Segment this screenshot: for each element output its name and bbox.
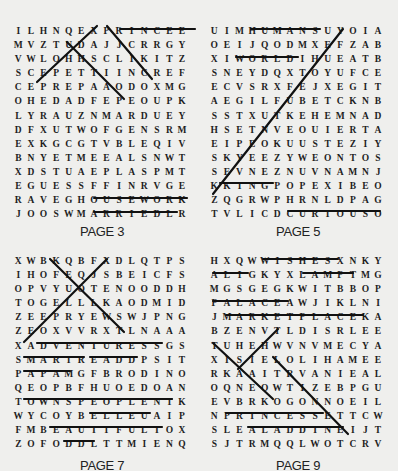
grid-letter: D (50, 94, 63, 108)
grid-letter: T (347, 151, 360, 165)
grid-letter: K (221, 151, 234, 165)
grid-letter: E (25, 80, 38, 94)
grid-letter: C (284, 207, 297, 221)
grid-letter: W (233, 52, 246, 66)
grid-letter: A (221, 296, 234, 310)
grid-letter: N (113, 282, 126, 296)
grid-letter: A (246, 367, 259, 381)
grid-letter: D (151, 282, 164, 296)
grid-letter: R (138, 179, 151, 193)
grid-letter: B (208, 324, 221, 338)
grid-letter: J (113, 38, 126, 52)
grid-letter: O (88, 123, 101, 137)
grid-letter: E (37, 310, 50, 324)
grid-letter: P (296, 179, 309, 193)
grid-letter: J (372, 165, 385, 179)
grid-letter: W (25, 254, 38, 268)
grid-letter: F (176, 66, 189, 80)
grid-letter: H (25, 94, 38, 108)
grid-letter: W (75, 123, 88, 137)
grid-letter: E (221, 94, 234, 108)
grid-letter: L (88, 437, 101, 451)
grid-letter: E (334, 80, 347, 94)
grid-letter: E (208, 395, 221, 409)
grid-letter: H (321, 353, 334, 367)
grid-letter: C (258, 207, 271, 221)
grid-letter: X (284, 268, 297, 282)
grid-letter: E (233, 123, 246, 137)
grid-letter: G (75, 367, 88, 381)
grid-letter: Q (221, 381, 234, 395)
grid-letter: V (284, 339, 297, 353)
grid-letter: P (151, 165, 164, 179)
grid-letter: B (347, 179, 360, 193)
grid-letter: S (176, 268, 189, 282)
grid-letter: M (25, 423, 38, 437)
grid-letter: T (163, 395, 176, 409)
grid-letter: I (233, 38, 246, 52)
grid-letter: F (271, 94, 284, 108)
grid-letter: A (208, 268, 221, 282)
grid-letter: V (100, 137, 113, 151)
grid-letter: N (347, 254, 360, 268)
grid-letter: S (151, 123, 164, 137)
grid-letter: A (37, 353, 50, 367)
grid-letter: T (88, 423, 101, 437)
grid-letter: N (258, 409, 271, 423)
grid-letter: E (88, 310, 101, 324)
grid-letter: H (75, 193, 88, 207)
grid-letter: W (296, 296, 309, 310)
grid-letter: T (208, 207, 221, 221)
grid-letter: X (246, 109, 259, 123)
grid-letter: M (208, 282, 221, 296)
grid-letter: K (176, 193, 189, 207)
grid-letter: S (138, 339, 151, 353)
grid-letter: J (12, 207, 25, 221)
grid-letter: E (284, 409, 297, 423)
grid-letter: R (37, 109, 50, 123)
grid-letter: A (88, 80, 101, 94)
page-label: PAGE 7 (80, 458, 124, 471)
grid-letter: R (12, 193, 25, 207)
grid-letter: H (246, 24, 259, 38)
grid-letter: Q (62, 254, 75, 268)
grid-letter: T (12, 395, 25, 409)
grid-letter: E (208, 80, 221, 94)
grid-letter: K (347, 94, 360, 108)
grid-letter: M (258, 437, 271, 451)
grid-letter: H (88, 381, 101, 395)
grid-letter: N (258, 123, 271, 137)
grid-letter: E (233, 324, 246, 338)
grid-letter: E (284, 123, 297, 137)
grid-letter: Y (359, 339, 372, 353)
grid-letter: P (296, 310, 309, 324)
grid-letter: A (88, 207, 101, 221)
grid-letter: W (296, 282, 309, 296)
grid-row: SSTXUTKEHEMNAD (208, 109, 384, 123)
grid-letter: X (271, 80, 284, 94)
grid-letter: D (296, 324, 309, 338)
grid-letter: L (62, 296, 75, 310)
grid-letter: O (75, 282, 88, 296)
grid-letter: G (271, 282, 284, 296)
grid-letter: X (100, 254, 113, 268)
grid-letter: P (12, 367, 25, 381)
grid-letter: U (372, 381, 385, 395)
grid-row: ILHNQEXPRINCEE (12, 24, 188, 38)
grid-letter: S (208, 437, 221, 451)
grid-letter: L (12, 109, 25, 123)
grid-letter: I (334, 367, 347, 381)
grid-letter: E (125, 268, 138, 282)
grid-letter: N (321, 423, 334, 437)
grid-letter: A (359, 193, 372, 207)
grid-letter: I (309, 282, 322, 296)
grid-letter: O (258, 381, 271, 395)
grid-letter: D (113, 353, 126, 367)
grid-letter: W (100, 310, 113, 324)
grid-letter: T (75, 66, 88, 80)
grid-letter: I (138, 437, 151, 451)
grid-letter: E (221, 38, 234, 52)
grid-row: JMARKETPLACEKA (208, 310, 384, 324)
grid-letter: W (25, 52, 38, 66)
grid-letter: R (151, 38, 164, 52)
